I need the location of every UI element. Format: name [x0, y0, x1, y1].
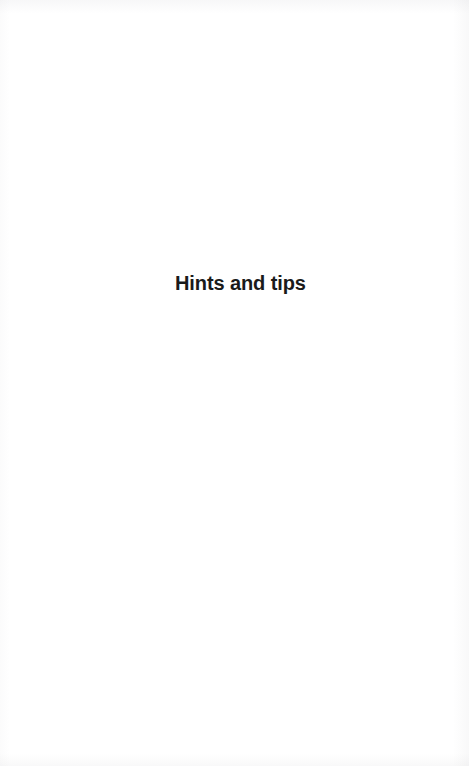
page-title: Hints and tips — [175, 272, 306, 294]
scan-edge-top — [0, 0, 469, 14]
scanned-page: Hints and tips — [0, 0, 469, 766]
scan-edge-bottom — [0, 754, 469, 766]
scan-edge-left — [0, 0, 10, 766]
scan-edge-right — [453, 0, 469, 766]
